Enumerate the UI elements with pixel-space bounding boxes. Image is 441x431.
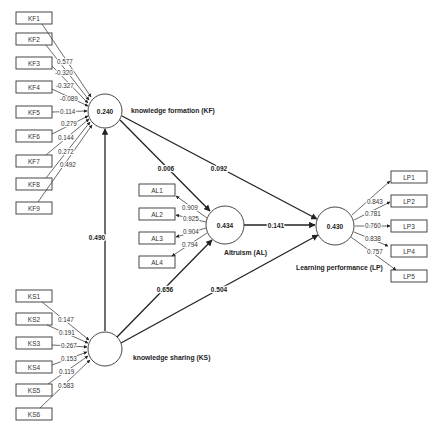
svg-text:KF4: KF4	[28, 84, 40, 91]
svg-text:KS4: KS4	[28, 364, 41, 371]
loading-kf3: -0.327	[56, 82, 74, 89]
loading-al2: 0.925	[183, 215, 199, 222]
loading-lp4: 0.838	[365, 235, 381, 242]
indicator-ks6: KS6	[16, 408, 52, 420]
loading-kf9: 0.492	[60, 161, 76, 168]
loading-ks3: 0.267	[61, 342, 77, 349]
svg-text:KS1: KS1	[28, 293, 41, 300]
indicator-al4: AL4	[139, 256, 175, 268]
svg-text:KF6: KF6	[28, 133, 40, 140]
label-ks: knowledge sharing (KS)	[133, 354, 210, 362]
svg-text:KF3: KF3	[28, 60, 40, 67]
indicator-kf4: KF4	[16, 81, 52, 93]
indicator-lp2: LP2	[391, 195, 427, 207]
svg-text:AL2: AL2	[151, 211, 163, 218]
svg-text:LP1: LP1	[403, 174, 415, 181]
loading-ks4: 0.153	[61, 355, 77, 362]
svg-text:KF7: KF7	[28, 158, 40, 165]
r2-lp: 0.430	[327, 223, 344, 230]
loading-kf1: 0.577	[57, 58, 73, 65]
loading-al1: 0.909	[182, 204, 198, 211]
svg-text:KS6: KS6	[28, 411, 41, 418]
indicator-al1: AL1	[139, 184, 175, 196]
svg-text:AL3: AL3	[151, 235, 163, 242]
construct-al: 0.434 Altruism (AL)	[206, 206, 267, 257]
svg-text:KF2: KF2	[28, 36, 40, 43]
loading-kf6: 0.279	[61, 120, 77, 127]
loading-al3: 0.904	[183, 228, 199, 235]
r2-kf: 0.240	[97, 108, 114, 115]
indicator-lp5: LP5	[391, 270, 427, 282]
loading-kf7: 0.144	[58, 134, 74, 141]
loading-lp1: 0.843	[367, 198, 383, 205]
indicator-ks5: KS5	[16, 384, 52, 396]
loading-kf5: 0.114	[60, 108, 76, 115]
svg-text:AL4: AL4	[151, 259, 163, 266]
svg-text:KS3: KS3	[28, 340, 41, 347]
svg-text:LP5: LP5	[403, 273, 415, 280]
path-coef-al-lp: 0.141	[268, 222, 285, 229]
path-coef-ks-lp: 0.504	[211, 286, 228, 293]
indicator-kf1: KF1	[16, 12, 52, 24]
svg-text:LP2: LP2	[403, 198, 415, 205]
svg-text:KF8: KF8	[28, 181, 40, 188]
svg-text:KF9: KF9	[28, 205, 40, 212]
indicator-ks3: KS3	[16, 337, 52, 349]
loading-ks6: 0.583	[58, 382, 74, 389]
indicator-ks1: KS1	[16, 290, 52, 302]
label-al: Altruism (AL)	[224, 249, 267, 257]
label-lp: Learning performance (LP)	[296, 264, 383, 272]
svg-text:AL1: AL1	[151, 187, 163, 194]
indicator-ks4: KS4	[16, 361, 52, 373]
loading-ks1: 0.147	[58, 316, 74, 323]
svg-text:KF5: KF5	[28, 109, 40, 116]
loading-lp2: 0.781	[365, 210, 381, 217]
svg-text:KS5: KS5	[28, 387, 41, 394]
path-coef-kf-al: 0.006	[158, 165, 175, 172]
loading-kf8: 0.272	[58, 148, 74, 155]
indicator-kf7: KF7	[16, 155, 52, 167]
path-coef-ks-kf: 0.490	[89, 234, 106, 241]
loading-lp3: 0.760	[365, 222, 381, 229]
indicator-kf8: KF8	[16, 178, 52, 190]
path-coef-kf-lp: 0.092	[211, 165, 228, 172]
indicator-ks2: KS2	[16, 313, 52, 325]
indicator-al3: AL3	[139, 232, 175, 244]
svg-text:LP3: LP3	[403, 223, 415, 230]
indicator-kf9: KF9	[16, 202, 52, 214]
indicator-kf5: KF5	[16, 106, 52, 118]
structural-paths: 0.490 0.006 0.092 0.656 0.504 0.141	[89, 116, 318, 343]
svg-text:KF1: KF1	[28, 15, 40, 22]
indicator-kf3: KF3	[16, 57, 52, 69]
construct-ks: knowledge sharing (KS)	[88, 332, 210, 366]
svg-text:LP4: LP4	[403, 248, 415, 255]
loading-ks5: 0.119	[59, 368, 75, 375]
indicator-lp3: LP3	[391, 220, 427, 232]
loading-ks2: 0.191	[59, 329, 75, 336]
indicator-al2: AL2	[139, 208, 175, 220]
pls-sem-diagram: 0.490 0.006 0.092 0.656 0.504 0.141 KF1 …	[0, 0, 441, 431]
loading-al4: 0.794	[182, 241, 198, 248]
ks-indicators: KS1 KS2 KS3 KS4 KS5 KS6 0.147 0.191 0.26…	[16, 290, 90, 420]
loading-lp5: 0.757	[367, 248, 383, 255]
kf-indicators: KF1 KF2 KF3 KF4 KF5 KF6 KF7 KF8 KF9 0.57…	[16, 12, 92, 214]
r2-al: 0.434	[217, 222, 234, 229]
path-coef-ks-al: 0.656	[157, 286, 174, 293]
indicator-lp4: LP4	[391, 245, 427, 257]
construct-kf: 0.240 knowledge formation (KF)	[88, 94, 215, 128]
indicator-kf2: KF2	[16, 33, 52, 45]
indicator-lp1: LP1	[391, 171, 427, 183]
label-kf: knowledge formation (KF)	[131, 107, 215, 115]
loading-kf2: -0.320	[55, 69, 73, 76]
svg-text:KS2: KS2	[28, 316, 41, 323]
loading-kf4: -0.089	[60, 95, 78, 102]
indicator-kf6: KF6	[16, 130, 52, 142]
